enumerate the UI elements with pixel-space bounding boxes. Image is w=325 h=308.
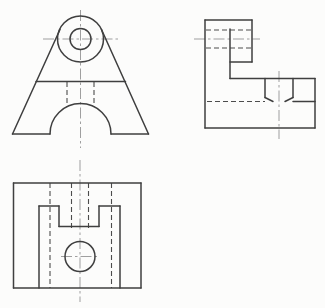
orthographic-projection-canvas — [0, 0, 325, 308]
side-view-visible-edge — [285, 98, 293, 102]
side-view-visible-edge — [265, 98, 273, 102]
side-view — [194, 20, 315, 139]
top-view — [14, 160, 142, 302]
front-view — [13, 10, 149, 148]
engineering-drawing-page — [0, 0, 325, 308]
